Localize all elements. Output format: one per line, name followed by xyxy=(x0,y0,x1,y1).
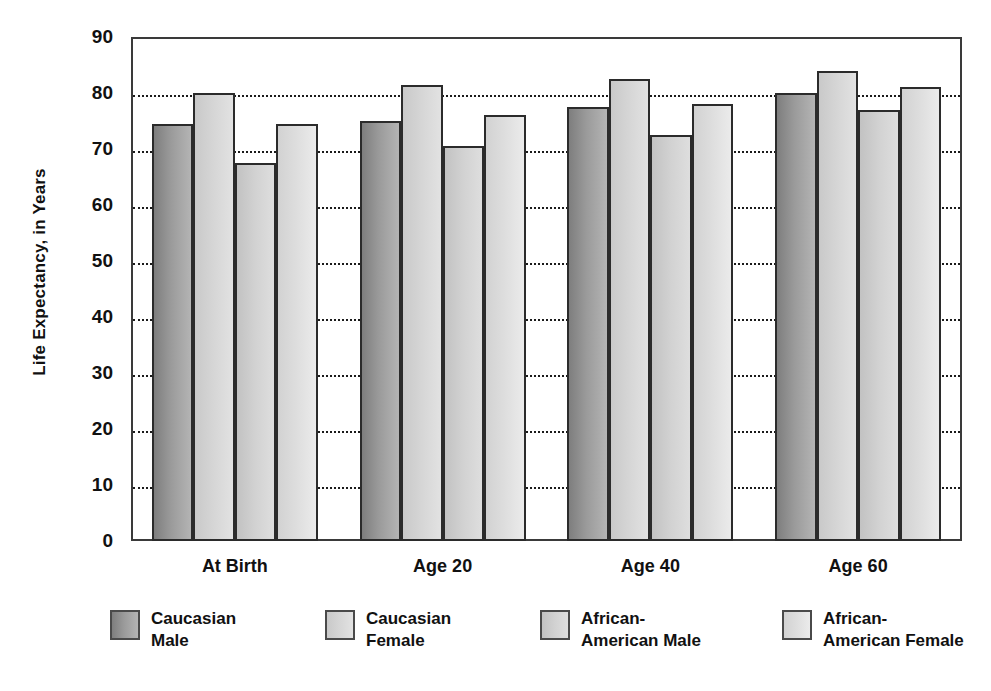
legend-label: African- American Female xyxy=(823,608,964,653)
bar xyxy=(692,104,734,541)
bar xyxy=(443,146,485,541)
bar-group xyxy=(567,37,733,541)
bar xyxy=(152,124,194,541)
bar xyxy=(401,85,443,541)
y-axis-tick-label: 50 xyxy=(92,250,113,272)
bar xyxy=(484,115,526,541)
y-axis-tick-label: 10 xyxy=(92,474,113,496)
bar xyxy=(900,87,942,541)
bar-group xyxy=(775,37,941,541)
x-axis-category-labels: At BirthAge 20Age 40Age 60 xyxy=(131,556,962,590)
legend-item[interactable]: African- American Male xyxy=(540,608,701,653)
bar xyxy=(817,71,859,541)
legend-label: Caucasian Male xyxy=(151,608,236,653)
bar xyxy=(609,79,651,541)
legend-item[interactable]: Caucasian Male xyxy=(110,608,236,653)
y-axis-tick-label: 40 xyxy=(92,306,113,328)
bar xyxy=(276,124,318,541)
bar xyxy=(775,93,817,541)
y-axis-tick-label: 60 xyxy=(92,194,113,216)
y-axis-tick-label: 90 xyxy=(92,26,113,48)
y-axis-tick-label: 0 xyxy=(102,530,113,552)
x-axis-category-label: Age 20 xyxy=(413,556,472,577)
bar xyxy=(567,107,609,541)
legend-label: African- American Male xyxy=(581,608,701,653)
legend-swatch-icon xyxy=(782,610,812,640)
bar xyxy=(193,93,235,541)
y-axis-tick-label: 20 xyxy=(92,418,113,440)
y-axis-tick-label: 80 xyxy=(92,82,113,104)
legend-swatch-icon xyxy=(325,610,355,640)
legend-swatch-icon xyxy=(540,610,570,640)
bar xyxy=(235,163,277,541)
chart-legend: Caucasian MaleCaucasian FemaleAfrican- A… xyxy=(110,608,970,684)
x-axis-category-label: Age 60 xyxy=(829,556,888,577)
legend-swatch-icon xyxy=(110,610,140,640)
y-axis-tick-labels: 9080706050403020100 xyxy=(0,0,131,541)
bar-group xyxy=(360,37,526,541)
x-axis-category-label: At Birth xyxy=(202,556,268,577)
legend-label: Caucasian Female xyxy=(366,608,451,653)
bar-group xyxy=(152,37,318,541)
x-axis-category-label: Age 40 xyxy=(621,556,680,577)
bar xyxy=(858,110,900,541)
bar-chart: Life Expectancy, in Years 90807060504030… xyxy=(0,0,991,691)
legend-item[interactable]: Caucasian Female xyxy=(325,608,451,653)
legend-item[interactable]: African- American Female xyxy=(782,608,964,653)
y-axis-tick-label: 30 xyxy=(92,362,113,384)
y-axis-tick-label: 70 xyxy=(92,138,113,160)
bar xyxy=(360,121,402,541)
bar xyxy=(650,135,692,541)
bars-layer xyxy=(131,37,962,541)
